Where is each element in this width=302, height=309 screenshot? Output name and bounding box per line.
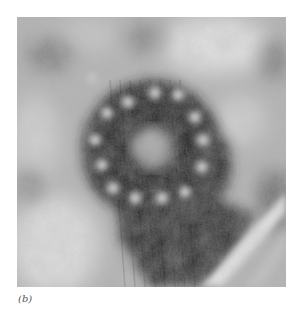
micrograph-svg bbox=[17, 17, 286, 287]
micrograph-image bbox=[17, 17, 286, 287]
figure-label: (b) bbox=[18, 293, 32, 304]
